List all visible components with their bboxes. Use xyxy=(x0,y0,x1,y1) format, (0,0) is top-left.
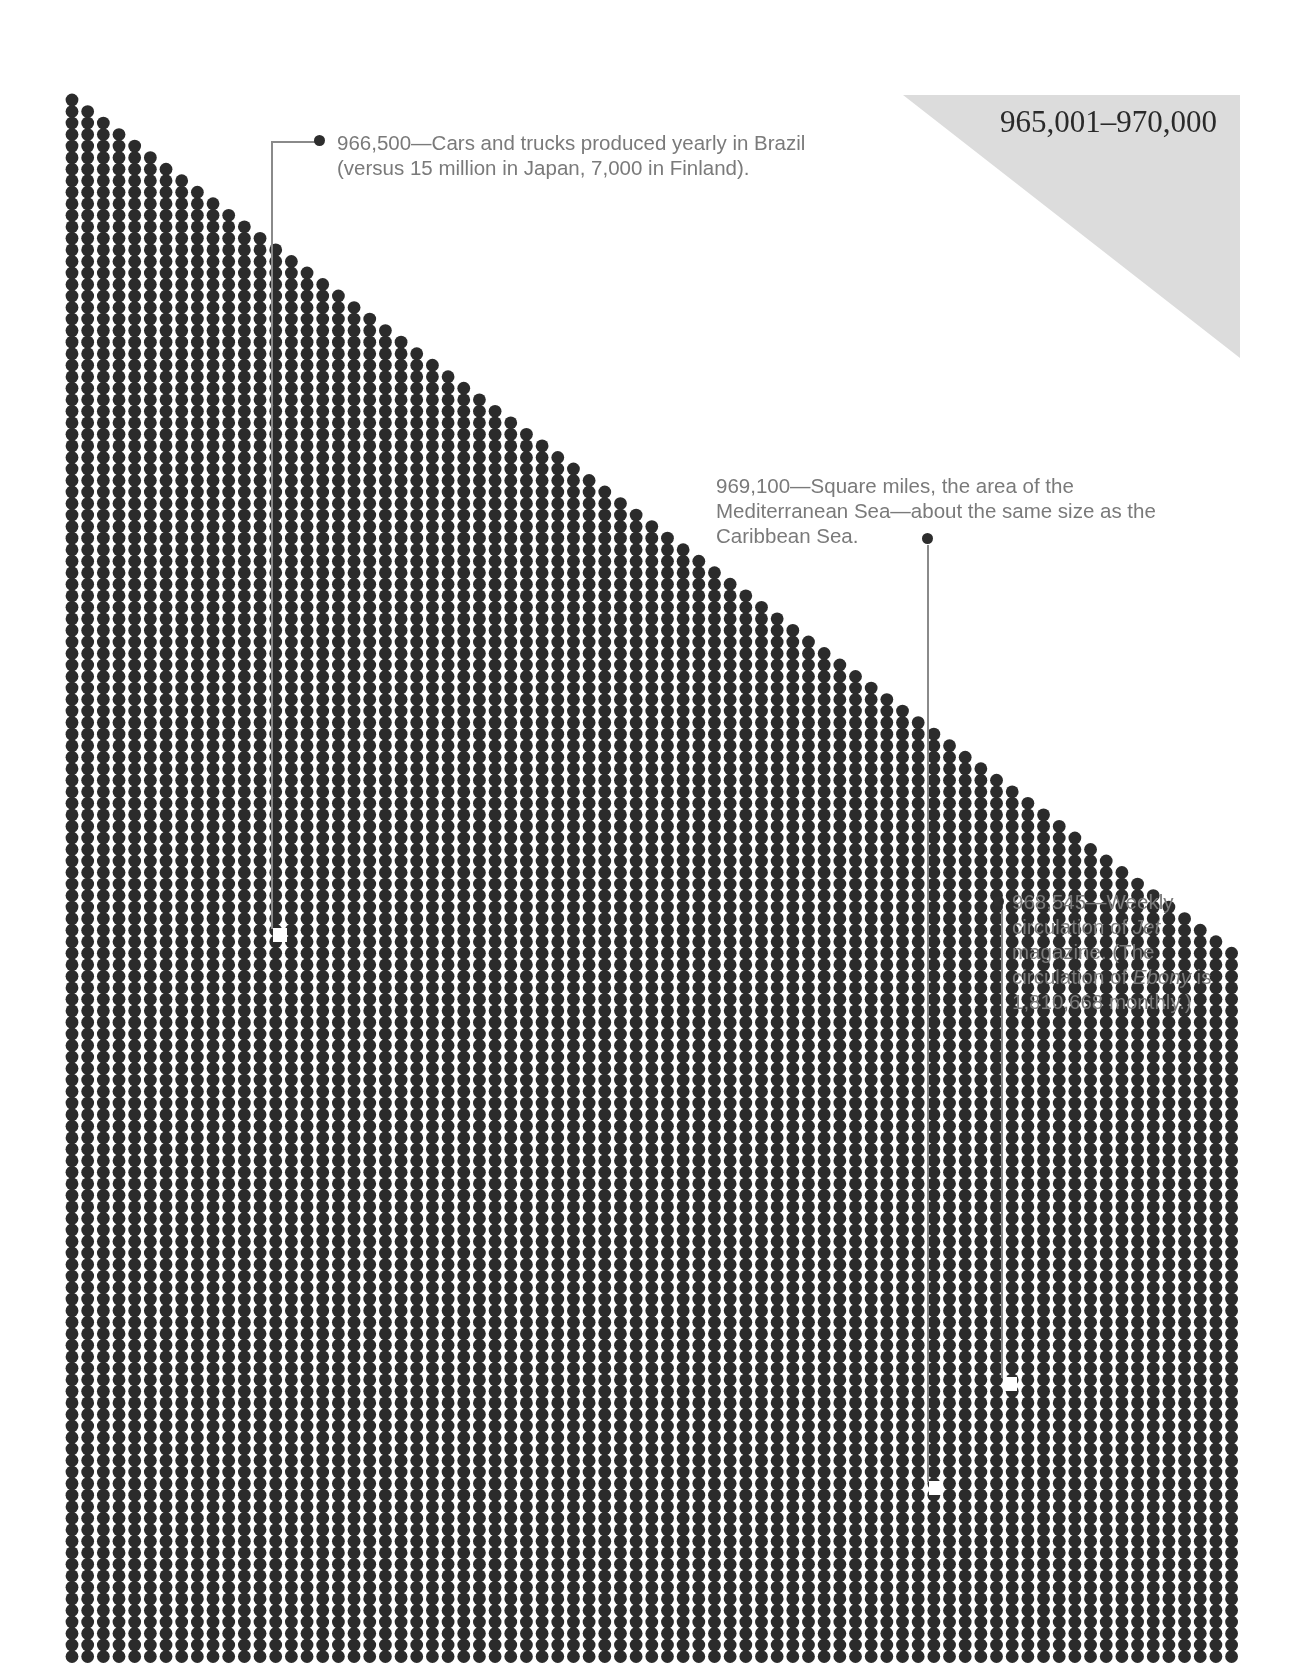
annotation-968545: 968,545—Weekly circulation of Jet magazi… xyxy=(1012,889,1252,1014)
leader-line-969100 xyxy=(927,545,929,1482)
highlight-dot-969100 xyxy=(929,1481,943,1495)
highlight-dot-968545 xyxy=(1003,1377,1017,1391)
leader-line-968545 xyxy=(1001,910,1003,1378)
annotation-968545-ebony: Ebony xyxy=(1133,965,1191,988)
annotation-968545-line2: circulation of Jet xyxy=(1012,914,1252,939)
leader-line-966500-v xyxy=(271,141,273,929)
range-title: 965,001–970,000 xyxy=(1000,104,1217,140)
annotation-968545-line4-post: is xyxy=(1191,965,1212,988)
annotation-968545-line2-text: circulation of xyxy=(1012,915,1133,938)
annotation-968545-line4-text: circulation of xyxy=(1012,965,1133,988)
annotation-968545-line5: 1,810,668 monthly.) xyxy=(1012,989,1252,1014)
annotation-968545-line1: 968,545—Weekly xyxy=(1012,889,1252,914)
annotation-966500: 966,500—Cars and trucks produced yearly … xyxy=(337,130,817,180)
annotation-968545-line4: circulation of Ebony is xyxy=(1012,964,1252,989)
annotation-bullet-966500 xyxy=(314,135,325,146)
annotation-968545-line3: magazine. (The xyxy=(1012,939,1252,964)
annotation-969100-text: 969,100—Square miles, the area of the Me… xyxy=(716,474,1156,547)
annotation-969100: 969,100—Square miles, the area of the Me… xyxy=(716,473,1196,548)
leader-line-966500-h xyxy=(271,141,315,143)
annotation-bullet-969100 xyxy=(922,533,933,544)
annotation-968545-jet: Jet xyxy=(1133,915,1160,938)
highlight-dot-966500 xyxy=(273,928,287,942)
annotation-bullet-968545 xyxy=(993,896,1004,907)
